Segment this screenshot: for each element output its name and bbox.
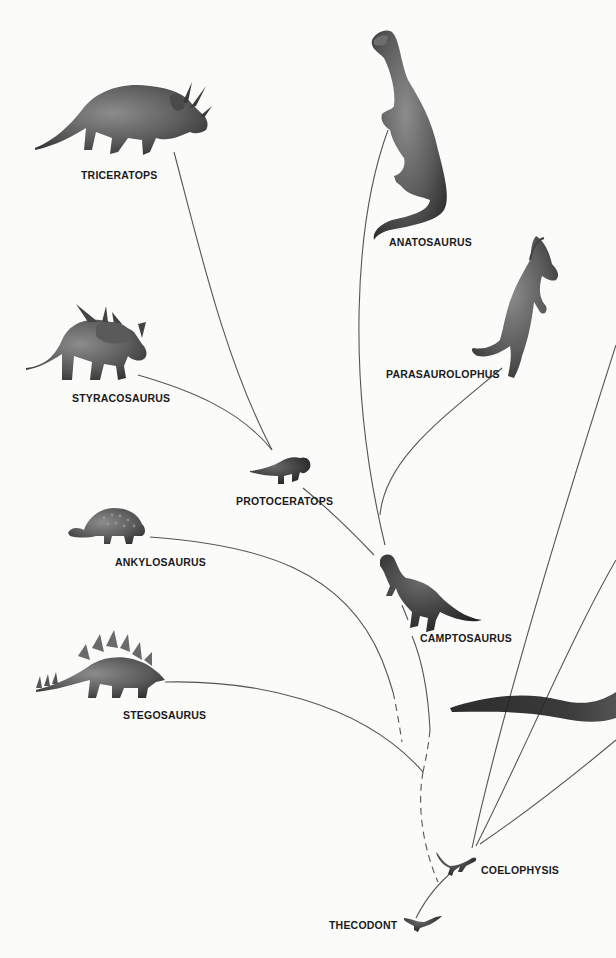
label-parasaurolophus: PARASAUROLOPHUS [386,368,500,380]
edge-styracosaurus [138,375,272,450]
edge-stegosaurus [165,682,423,772]
edge-coelophysis-1 [472,345,616,848]
edge-coelophysis-3 [480,740,616,844]
styracosaurus-figure[interactable] [26,304,147,380]
anatosaurus-figure[interactable] [372,30,447,240]
coelophysis-figure[interactable] [436,852,476,876]
ankylosaurus-figure[interactable] [68,508,145,544]
label-thecodont: THECODONT [329,919,397,931]
edge-thecodont [416,864,462,918]
label-ankylosaurus: ANKYLOSAURUS [115,556,206,568]
edge-root-dashed [421,772,438,882]
label-protoceratops: PROTOCERATOPS [236,495,333,507]
edge-camptosaurus-dashed [423,730,430,772]
camptosaurus-figure[interactable] [380,554,482,632]
thecodont-figure[interactable] [404,916,442,932]
stegosaurus-figure[interactable] [36,630,165,698]
label-camptosaurus: CAMPTOSAURUS [420,632,512,644]
label-anatosaurus: ANATOSAURUS [389,236,472,248]
dashed-lines [393,692,438,882]
edge-triceratops [174,152,272,450]
label-styracosaurus: STYRACOSAURUS [72,392,170,404]
label-triceratops: TRICERATOPS [81,169,158,181]
edge-camptosaurus-stem [402,605,408,620]
sauropod-tail [450,692,616,722]
protoceratops-figure[interactable] [250,457,310,484]
label-stegosaurus: STEGOSAURUS [123,709,206,721]
triceratops-figure[interactable] [35,82,212,155]
edge-ankylosaurus-dashed [393,692,402,742]
label-coelophysis: COELOPHYSIS [481,864,559,876]
edge-anatosaurus [359,130,388,545]
tree-canvas [0,0,616,958]
edge-parasaurolophus [380,368,502,515]
parasaurolophus-figure[interactable] [472,236,558,378]
